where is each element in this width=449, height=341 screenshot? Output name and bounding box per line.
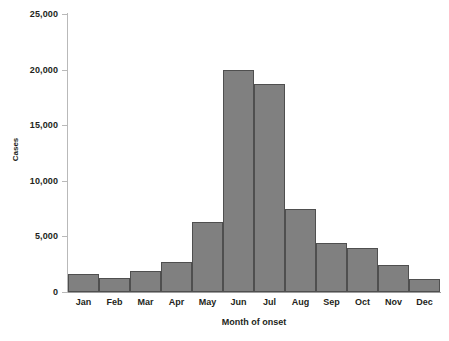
y-axis-tick-label: 20,000: [0, 65, 58, 75]
x-axis-tick-label: Jan: [68, 296, 99, 308]
x-axis-tick-label: Mar: [130, 296, 161, 308]
bar-series: [68, 14, 440, 292]
x-axis-tick-label: Apr: [161, 296, 192, 308]
x-axis-tick-label: Jun: [223, 296, 254, 308]
x-axis-line: [67, 292, 441, 293]
x-axis-title: Month of onset: [68, 317, 440, 327]
bar: [409, 279, 440, 292]
bar: [99, 278, 130, 292]
bar-chart: 05,00010,00015,00020,00025,000 JanFebMar…: [0, 0, 449, 341]
bar: [68, 274, 99, 292]
bar: [223, 70, 254, 292]
x-axis-tick-label: Aug: [285, 296, 316, 308]
x-axis-tick-label: Sep: [316, 296, 347, 308]
y-axis-tick-label: 25,000: [0, 9, 58, 19]
x-axis-tick-label: Dec: [409, 296, 440, 308]
bar: [378, 265, 409, 292]
x-axis-tick-label: Oct: [347, 296, 378, 308]
bar: [316, 243, 347, 292]
x-axis-tick-label: Nov: [378, 296, 409, 308]
y-axis-tick: [62, 292, 68, 293]
x-axis-tick-label: Feb: [99, 296, 130, 308]
y-axis-tick-label: 0: [0, 287, 58, 297]
bar: [130, 271, 161, 292]
bar: [192, 222, 223, 292]
x-axis-tick-label: Jul: [254, 296, 285, 308]
bar: [347, 248, 378, 292]
x-axis-tick-label: May: [192, 296, 223, 308]
bar: [161, 262, 192, 292]
y-axis-tick-label: 5,000: [0, 231, 58, 241]
y-axis-tick-label: 15,000: [0, 120, 58, 130]
y-axis-title: Cases: [11, 120, 20, 180]
y-axis-tick-label: 10,000: [0, 176, 58, 186]
bar: [254, 84, 285, 292]
bar: [285, 209, 316, 292]
